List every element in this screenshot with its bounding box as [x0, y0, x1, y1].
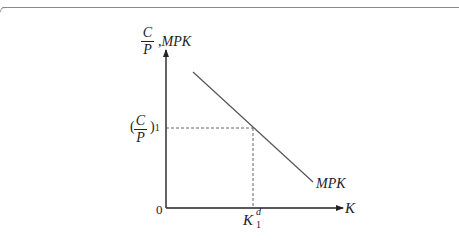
y-tick-denominator: P: [136, 130, 145, 145]
y-tick-numerator: C: [135, 114, 146, 129]
y-axis-label-fraction: C P: [141, 26, 154, 57]
y-tick-close-paren: )1: [150, 120, 160, 134]
x-tick-base: K: [243, 212, 253, 228]
y-axis-label-denominator: P: [143, 42, 152, 57]
x-tick-subscript: 1: [256, 220, 261, 230]
y-tick-label-fraction: C P: [134, 114, 147, 145]
y-tick-subscript: 1: [155, 122, 160, 133]
x-tick-superscript: d: [256, 207, 261, 217]
x-axis-label: K: [345, 201, 355, 216]
origin-label: 0: [156, 203, 163, 216]
y-axis-label-mpk: MPK: [162, 34, 192, 49]
y-axis-label-suffix: ,MPK: [158, 35, 191, 49]
mpk-curve-label: MPK: [316, 177, 346, 191]
y-axis-label-numerator: C: [142, 26, 153, 41]
diagram-canvas: [0, 0, 459, 241]
x-tick-label: K: [243, 213, 253, 228]
